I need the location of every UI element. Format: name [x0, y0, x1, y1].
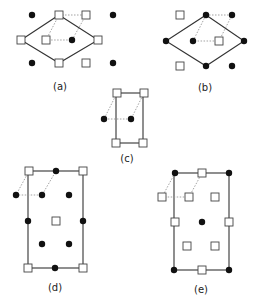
panel-label-d: (d): [48, 282, 62, 293]
panel-e: (e): [158, 169, 233, 295]
panel-b: (b): [163, 11, 247, 93]
panel-label-b: (b): [198, 82, 212, 93]
panel-c: (c): [101, 89, 148, 164]
panel-label-c: (c): [120, 153, 133, 164]
panel-label-e: (e): [194, 284, 208, 295]
rhombic-cell-a: [21, 15, 98, 63]
panel-label-a: (a): [53, 81, 67, 92]
lattice-diagram: (a) (b) (c): [0, 0, 257, 305]
panel-a: (a): [17, 11, 116, 92]
primitive-cell-a: [46, 15, 86, 40]
panel-d: (d): [13, 167, 87, 293]
rhombic-cell-b: [166, 15, 244, 66]
